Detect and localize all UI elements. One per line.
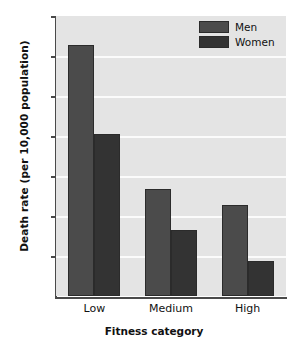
legend: Men Women <box>196 18 279 51</box>
y-tick-mark <box>51 256 56 258</box>
y-tick-mark <box>51 216 56 218</box>
legend-label-women: Women <box>235 37 275 48</box>
bar-women-medium <box>171 230 197 296</box>
y-tick-mark <box>51 16 56 18</box>
legend-swatch-women-icon <box>199 36 229 48</box>
legend-item-men: Men <box>199 21 275 33</box>
legend-swatch-men-icon <box>199 21 229 33</box>
y-tick-mark <box>51 96 56 98</box>
x-category-label-low: Low <box>54 302 134 315</box>
y-tick-mark <box>51 56 56 58</box>
y-axis-title: Death rate (per 10,000 population) <box>18 26 30 266</box>
y-tick-mark <box>51 136 56 138</box>
legend-label-men: Men <box>235 22 257 33</box>
x-axis-line <box>55 297 287 299</box>
bar-men-medium <box>145 189 171 296</box>
bar-women-high <box>248 261 274 296</box>
bar-chart: Death rate (per 10,000 population) 10203… <box>0 0 308 353</box>
x-axis-title: Fitness category <box>0 325 308 337</box>
y-tick-mark <box>51 176 56 178</box>
x-category-label-high: High <box>208 302 288 315</box>
bar-women-low <box>94 134 120 296</box>
bar-men-high <box>222 205 248 296</box>
plot-area: 10203040506070 <box>56 16 286 296</box>
legend-item-women: Women <box>199 36 275 48</box>
bar-men-low <box>68 45 94 296</box>
x-category-label-medium: Medium <box>131 302 211 315</box>
